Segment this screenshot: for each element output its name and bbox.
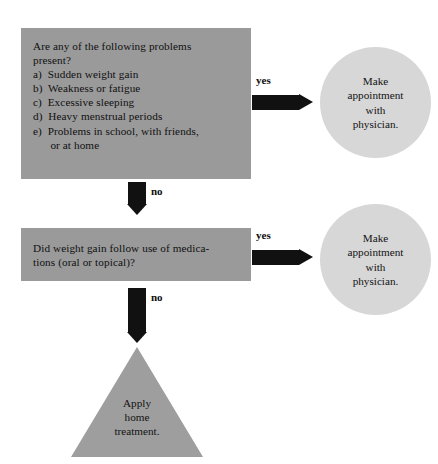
arrow-head bbox=[299, 249, 313, 265]
arrow-q2-yes bbox=[252, 250, 313, 265]
arrow-shaft bbox=[252, 250, 299, 265]
arrow-shaft bbox=[252, 95, 299, 110]
terminator-circle-outcome-2: Make appointment with physician. bbox=[320, 204, 431, 315]
outcome-2-text: Make appointment with physician. bbox=[348, 231, 404, 288]
question-1-text: Are any of the following problems presen… bbox=[33, 39, 199, 152]
arrow-head bbox=[299, 94, 313, 110]
arrow-head bbox=[127, 204, 147, 215]
edge-label-q2-no: no bbox=[151, 291, 163, 303]
terminator-circle-outcome-1: Make appointment with physician. bbox=[320, 47, 431, 158]
arrow-q2-no bbox=[128, 288, 146, 343]
arrow-shaft bbox=[128, 182, 146, 204]
edge-label-q1-no: no bbox=[151, 185, 163, 197]
edge-label-q2-yes: yes bbox=[256, 229, 271, 241]
arrow-q1-no bbox=[128, 182, 146, 215]
edge-label-q1-yes: yes bbox=[256, 74, 271, 86]
arrow-shaft bbox=[128, 288, 146, 332]
decision-box-question-1: Are any of the following problems presen… bbox=[21, 28, 251, 179]
decision-box-question-2: Did weight gain follow use of medica- ti… bbox=[21, 228, 251, 281]
flowchart-diagram: Are any of the following problems presen… bbox=[0, 0, 438, 464]
outcome-3-text: Apply home treatment. bbox=[77, 396, 197, 439]
arrow-q1-yes bbox=[252, 95, 313, 110]
outcome-1-text: Make appointment with physician. bbox=[348, 74, 404, 131]
question-2-text: Did weight gain follow use of medica- ti… bbox=[33, 241, 209, 269]
arrow-head bbox=[127, 332, 147, 343]
